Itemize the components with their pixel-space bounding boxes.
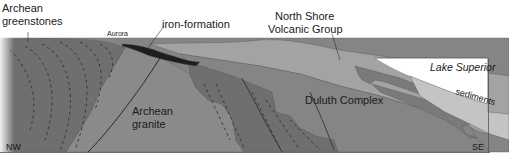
cross-section-diagram: Archean greenstones Aurora iron-formatio… [0,0,509,168]
label-archean-greenstones-1: Archean [2,2,43,14]
label-duluth-complex: Duluth Complex [305,94,384,106]
label-iron-formation: iron-formation [162,18,230,30]
label-archean-granite-2: granite [132,118,166,130]
label-north-shore-2: Volcanic Group [268,23,343,35]
label-aurora: Aurora [107,30,128,37]
label-north-shore-1: North Shore [275,10,334,22]
label-se: SE [472,142,484,152]
label-archean-granite-1: Archean [132,105,173,117]
label-lake-superior: Lake Superior [430,61,496,73]
label-archean-greenstones-2: greenstones [2,15,63,27]
bottom-margin [0,153,509,168]
label-nw: NW [6,142,21,152]
